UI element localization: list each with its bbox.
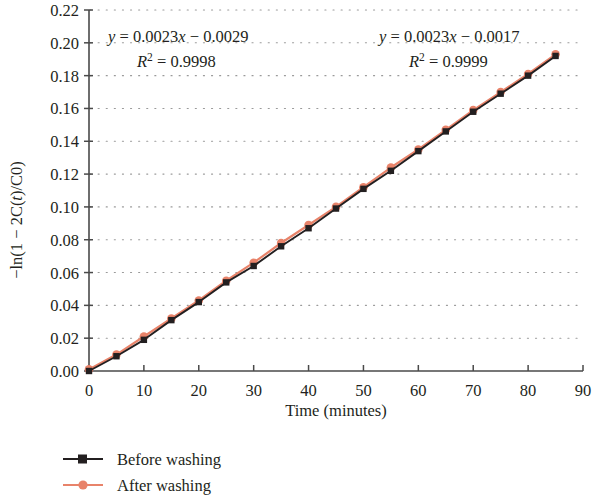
data-point <box>388 168 394 174</box>
y-tick-label: 0.22 <box>50 1 79 20</box>
data-point <box>360 186 366 192</box>
data-point <box>305 225 311 231</box>
y-tick-label: 0.20 <box>50 34 79 53</box>
y-tick-label: 0.14 <box>50 132 79 151</box>
legend-label-before: Before washing <box>117 450 221 469</box>
y-tick-label: 0.08 <box>50 231 79 250</box>
data-point <box>415 148 421 154</box>
data-point <box>497 90 503 96</box>
y-tick-label: 0.18 <box>50 67 79 86</box>
y-tick-label: 0.00 <box>50 362 79 381</box>
chart-figure: 0.000.020.040.060.080.100.120.140.160.18… <box>0 0 606 498</box>
legend-marker-after <box>78 480 87 489</box>
x-tick-label: 0 <box>85 381 93 400</box>
data-point <box>113 353 119 359</box>
data-point <box>443 128 449 134</box>
x-axis-title: Time (minutes) <box>285 401 387 420</box>
x-tick-label: 90 <box>575 381 592 400</box>
chart-background <box>0 0 606 498</box>
data-point <box>168 317 174 323</box>
legend-label-after: After washing <box>117 476 211 495</box>
chart-canvas: 0.000.020.040.060.080.100.120.140.160.18… <box>0 0 606 498</box>
y-axis-title: −ln(1 − 2C(t)/C0) <box>7 161 26 279</box>
y-tick-label: 0.04 <box>50 296 79 315</box>
data-point <box>470 109 476 115</box>
data-point <box>86 368 92 374</box>
data-point <box>250 263 256 269</box>
x-tick-label: 80 <box>520 381 537 400</box>
data-point <box>278 243 284 249</box>
data-point <box>552 53 558 59</box>
x-tick-label: 20 <box>191 381 208 400</box>
x-tick-label: 30 <box>245 381 262 400</box>
data-point <box>525 72 531 78</box>
y-tick-label: 0.16 <box>50 99 79 118</box>
x-tick-label: 10 <box>136 381 153 400</box>
after-fit-equation: y = 0.0023x − 0.0017 <box>377 27 520 46</box>
x-tick-label: 60 <box>410 381 427 400</box>
legend-marker-before <box>78 455 87 464</box>
y-tick-label: 0.10 <box>50 198 79 217</box>
x-tick-label: 50 <box>355 381 372 400</box>
before-fit-equation: y = 0.0023x − 0.0029 <box>106 27 249 46</box>
data-point <box>333 205 339 211</box>
x-tick-label: 40 <box>300 381 317 400</box>
data-point <box>141 337 147 343</box>
y-tick-label: 0.02 <box>50 329 79 348</box>
x-tick-label: 70 <box>465 381 482 400</box>
data-point <box>223 279 229 285</box>
y-tick-label: 0.06 <box>50 264 79 283</box>
y-tick-label: 0.12 <box>50 165 79 184</box>
data-point <box>196 299 202 305</box>
